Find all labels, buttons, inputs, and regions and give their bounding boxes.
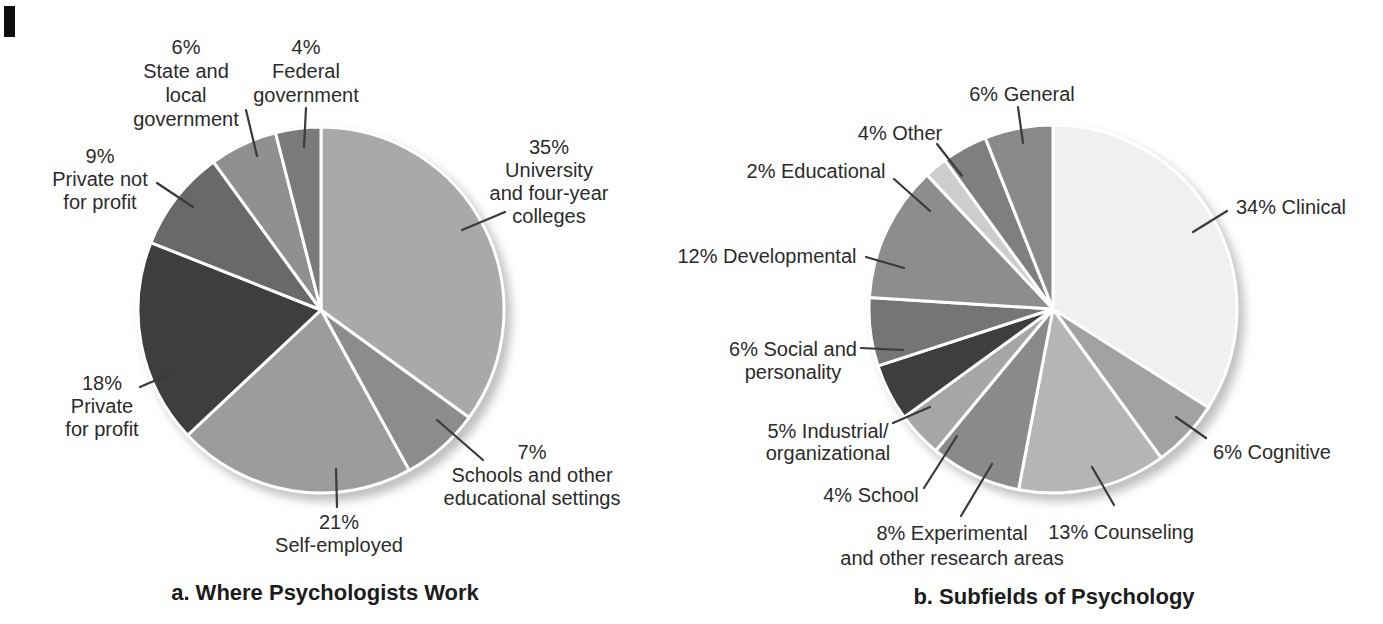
label-line: and other research areas	[840, 546, 1063, 571]
label-line: educational settings	[444, 487, 621, 510]
leader-line-self-employed	[336, 469, 337, 507]
label-line: and four-year	[490, 182, 609, 205]
label-line: 7%	[444, 441, 621, 464]
label-line: State and	[133, 59, 239, 83]
label-line: 13% Counseling	[1048, 521, 1194, 544]
label-line: 6% General	[969, 83, 1075, 106]
label-other: 4% Other	[858, 122, 942, 145]
label-self-employed: 21%Self-employed	[275, 511, 403, 557]
label-counseling: 13% Counseling	[1048, 521, 1194, 544]
caption-where-psychologists-work: a. Where Psychologists Work	[171, 580, 479, 606]
label-line: Federal	[253, 59, 359, 83]
label-line: 8% Experimental	[840, 521, 1063, 546]
label-line: 6% Cognitive	[1213, 441, 1331, 464]
label-line: personality	[729, 361, 857, 384]
label-industrial-organizational: 5% Industrial/organizational	[766, 420, 891, 464]
label-line: 6%	[133, 35, 239, 59]
label-developmental: 12% Developmental	[678, 245, 857, 268]
label-private-for-profit: 18%Privatefor profit	[65, 372, 138, 441]
pie-subfields-of-psychology	[869, 125, 1237, 493]
label-line: Self-employed	[275, 534, 403, 557]
label-line: government	[253, 83, 359, 107]
label-line: 34% Clinical	[1236, 196, 1346, 219]
label-private-not-for-profit: 9%Private notfor profit	[52, 145, 148, 214]
figure-psychology-pie-charts: 35%Universityand four-yearcolleges7%Scho…	[0, 0, 1383, 624]
label-line: Private	[65, 395, 138, 418]
label-line: 2% Educational	[747, 160, 886, 183]
pie-where-psychologists-work	[138, 127, 504, 493]
label-line: 12% Developmental	[678, 245, 857, 268]
label-line: colleges	[490, 205, 609, 228]
label-line: 18%	[65, 372, 138, 395]
label-educational: 2% Educational	[747, 160, 886, 183]
label-line: local	[133, 83, 239, 107]
label-line: for profit	[65, 418, 138, 441]
label-federal-government: 4%Federalgovernment	[253, 35, 359, 107]
label-university-and-four-year-colleges: 35%Universityand four-yearcolleges	[490, 136, 609, 228]
label-line: 4% School	[823, 484, 919, 507]
caption-subfields-of-psychology: b. Subfields of Psychology	[913, 584, 1194, 610]
label-general: 6% General	[969, 83, 1075, 106]
label-line: Schools and other	[444, 464, 621, 487]
label-line: 21%	[275, 511, 403, 534]
label-line: 35%	[490, 136, 609, 159]
label-schools-and-other-educational-settings: 7%Schools and othereducational settings	[444, 441, 621, 510]
label-line: 4% Other	[858, 122, 942, 145]
label-line: 6% Social and	[729, 338, 857, 361]
label-clinical: 34% Clinical	[1236, 196, 1346, 219]
label-experimental-and-other-research-areas: 8% Experimentaland other research areas	[840, 521, 1063, 571]
label-state-and-local-government: 6%State andlocalgovernment	[133, 35, 239, 131]
label-line: organizational	[766, 442, 891, 464]
label-line: 9%	[52, 145, 148, 168]
label-cognitive: 6% Cognitive	[1213, 441, 1331, 464]
label-line: Private not	[52, 168, 148, 191]
label-line: government	[133, 107, 239, 131]
label-line: University	[490, 159, 609, 182]
label-line: 4%	[253, 35, 359, 59]
label-school: 4% School	[823, 484, 919, 507]
label-social-and-personality: 6% Social andpersonality	[729, 338, 857, 384]
label-line: for profit	[52, 191, 148, 214]
label-line: 5% Industrial/	[766, 420, 891, 442]
